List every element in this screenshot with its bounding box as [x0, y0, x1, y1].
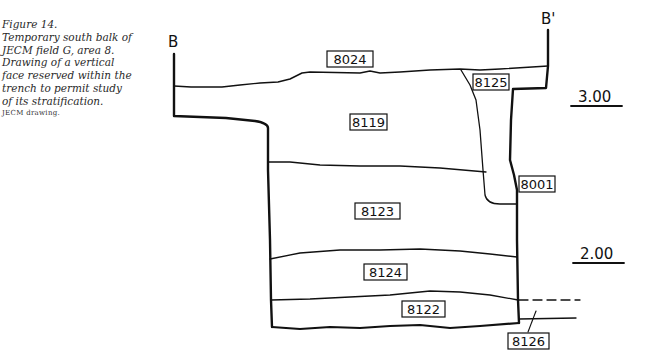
trench-outline-left [174, 54, 272, 327]
layer-label-8119: 8119 [352, 115, 385, 130]
leader-8126 [528, 311, 536, 332]
layer-label-8125: 8125 [474, 75, 507, 90]
trench-bottom [272, 323, 519, 329]
layer-label-8001: 8001 [520, 177, 553, 192]
layer-label-8126: 8126 [512, 334, 545, 349]
section-marker-b: B [168, 33, 178, 51]
layer-label-8024: 8024 [333, 52, 366, 67]
boundary-8119-8123 [268, 162, 486, 172]
section-marker-b-prime: B' [541, 10, 555, 28]
boundary-8124-8122 [271, 291, 518, 300]
boundary-8123-8124 [270, 249, 517, 259]
elevation-label-3: 3.00 [578, 88, 611, 106]
line-8126 [519, 318, 576, 319]
elevation-label-2: 2.00 [580, 245, 613, 263]
layer-label-8123: 8123 [361, 204, 394, 219]
layer-label-8124: 8124 [369, 265, 402, 280]
section-drawing: 8024 8125 8119 8001 8123 8124 8122 8126 … [0, 0, 661, 357]
layer-label-8122: 8122 [407, 302, 440, 317]
